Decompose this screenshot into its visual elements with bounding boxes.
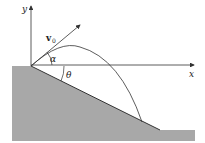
alpha-label: α — [50, 54, 56, 64]
theta-angle-arc — [61, 66, 64, 81]
projectile-diagram: y x v 0 α θ — [0, 0, 205, 143]
y-axis-label: y — [21, 4, 28, 14]
ground-region — [12, 66, 195, 141]
velocity-label: v — [45, 33, 52, 43]
theta-label: θ — [66, 70, 72, 80]
x-axis-label: x — [189, 69, 194, 79]
velocity-subscript: 0 — [52, 37, 56, 44]
